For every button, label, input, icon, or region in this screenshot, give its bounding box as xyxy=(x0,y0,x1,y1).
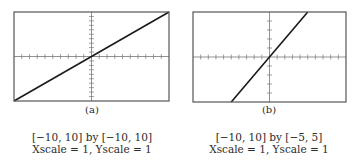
graph-b-caption: [−10, 10] by [−5, 5] Xscale = 1, Yscale … xyxy=(184,131,354,155)
graph-a-scale: Xscale = 1, Yscale = 1 xyxy=(7,143,177,155)
graph-b-window: [−10, 10] by [−5, 5] xyxy=(184,131,354,143)
graph-a-window: [−10, 10] by [−10, 10] xyxy=(7,131,177,143)
graph-b-plot xyxy=(0,0,354,110)
graph-b-label: (b) xyxy=(249,104,289,115)
graph-b-scale: Xscale = 1, Yscale = 1 xyxy=(184,143,354,155)
graph-a-caption: [−10, 10] by [−10, 10] Xscale = 1, Yscal… xyxy=(7,131,177,155)
